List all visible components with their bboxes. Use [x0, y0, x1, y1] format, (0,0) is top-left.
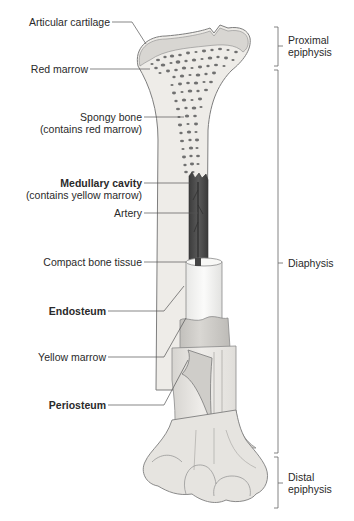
label-text: Periosteum — [49, 399, 106, 411]
label-text: Yellow marrow — [38, 351, 106, 363]
label-red-marrow: Red marrow — [31, 63, 88, 75]
label-text: Distal — [288, 471, 314, 483]
compact-bone-shape — [186, 258, 222, 327]
label-articular-cartilage: Articular cartilage — [29, 16, 110, 28]
label-endosteum: Endosteum — [49, 305, 106, 317]
label-text: Endosteum — [49, 305, 106, 317]
long-bone-diagram: Articular cartilage Red marrow Spongy bo… — [0, 0, 354, 521]
label-text: Spongy bone — [80, 111, 142, 123]
label-distal-epiphysis: Distal epiphysis — [288, 471, 332, 495]
label-subtext: epiphysis — [288, 46, 332, 58]
label-text: Red marrow — [31, 63, 88, 75]
region-brackets — [274, 27, 283, 508]
label-text: Medullary cavity — [60, 177, 142, 189]
label-medullary-cavity: Medullary cavity (contains yellow marrow… — [26, 177, 142, 201]
label-spongy-bone: Spongy bone (contains red marrow) — [40, 111, 142, 135]
label-text: Diaphysis — [288, 257, 334, 269]
label-text: Proximal — [288, 34, 329, 46]
label-subtext: epiphysis — [288, 483, 332, 495]
label-text: Compact bone tissue — [43, 256, 142, 268]
label-artery: Artery — [114, 207, 142, 219]
label-text: Articular cartilage — [29, 16, 110, 28]
label-periosteum: Periosteum — [49, 399, 106, 411]
label-compact-bone-tissue: Compact bone tissue — [43, 256, 142, 268]
label-yellow-marrow: Yellow marrow — [38, 351, 106, 363]
endosteum-shape — [180, 317, 230, 348]
label-diaphysis: Diaphysis — [288, 257, 334, 269]
label-subtext: (contains yellow marrow) — [26, 189, 142, 201]
label-subtext: (contains red marrow) — [40, 123, 142, 135]
label-proximal-epiphysis: Proximal epiphysis — [288, 34, 332, 58]
distal-epiphysis-shape — [143, 410, 267, 502]
label-text: Artery — [114, 207, 142, 219]
